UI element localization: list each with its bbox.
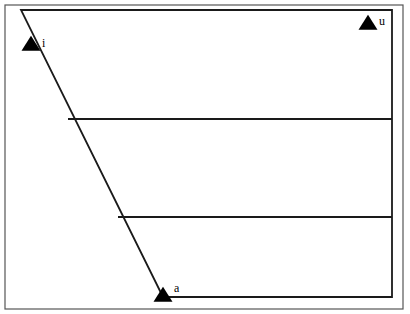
vowel-chart-figure: iua: [0, 0, 410, 314]
vowel-label-i: i: [42, 36, 46, 50]
vowel-quadrilateral-svg: iua: [0, 0, 410, 314]
vowel-point-group: iua: [22, 14, 386, 302]
vowel-point-u: u: [359, 14, 386, 30]
vowel-label-a: a: [174, 281, 180, 295]
triangle-up-icon: [154, 287, 173, 302]
vowel-label-u: u: [379, 14, 385, 28]
vowel-trapezoid-outline: [21, 10, 392, 297]
triangle-up-icon: [359, 15, 378, 30]
outer-frame-border: [5, 5, 403, 309]
vowel-point-i: i: [22, 36, 47, 51]
